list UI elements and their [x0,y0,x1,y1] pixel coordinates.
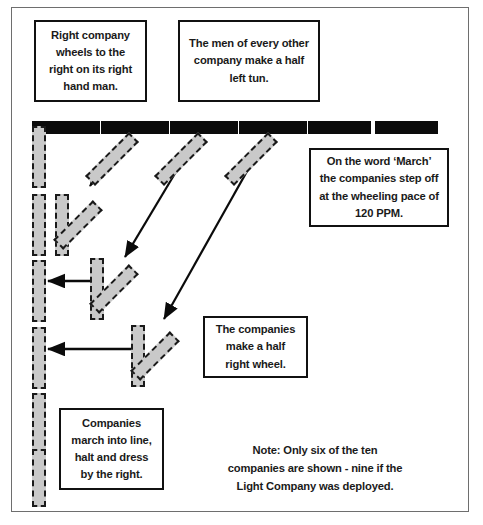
company-block-solid-2 [101,121,169,134]
figure-page: Right company wheels to the right on its… [0,0,483,525]
callout-on-the-word-march: On the word ‘March’ the companies step o… [309,148,449,227]
callout-right-company-wheel: Right company wheels to the right on its… [34,20,147,102]
callout-line: right wheel. [225,356,285,373]
callout-line: hand man. [63,78,118,95]
callout-line: left tun. [229,70,268,87]
callout-line: The companies [216,321,296,338]
callout-line: right on its right [49,61,132,78]
callout-line: the companies step off [320,170,439,187]
company-block-column-1 [32,126,46,188]
company-block-column-4 [32,327,46,389]
note-line: Light Company was deployed. [186,477,444,495]
callout-line: wheels to the [56,44,125,61]
company-block-solid-6 [375,121,438,134]
callout-line: halt and dress [75,449,149,466]
callout-every-other-company: The men of every other company make a ha… [178,20,320,102]
callout-line: by the right. [80,466,142,483]
company-block-column-5 [32,393,46,455]
callout-half-right-wheel: The companies make a half right wheel. [203,316,308,378]
company-block-column-2 [32,194,46,256]
company-block-solid-4 [239,121,307,134]
note-line: companies are shown - nine if the [186,459,444,477]
company-block-column-3 [32,260,46,322]
callout-line: Right company [51,27,130,44]
callout-line: company make a half [194,52,304,69]
company-block-column-6 [32,449,46,507]
callout-line: make a half [226,338,285,355]
callout-line: 120 PPM. [355,205,403,222]
ten-companies-note: Note: Only six of the ten companies are … [186,441,444,495]
callout-march-into-line: Companies march into line, halt and dres… [59,408,164,490]
callout-line: at the wheeling pace of [319,188,439,205]
note-line: Note: Only six of the ten [186,441,444,459]
callout-line: On the word ‘March’ [327,153,432,170]
callout-line: march into line, [71,432,151,449]
company-block-solid-3 [170,121,238,134]
arrow-company-3 [164,150,259,319]
company-block-solid-5 [308,121,371,134]
callout-line: Companies [82,415,141,432]
callout-line: The men of every other [189,35,309,52]
